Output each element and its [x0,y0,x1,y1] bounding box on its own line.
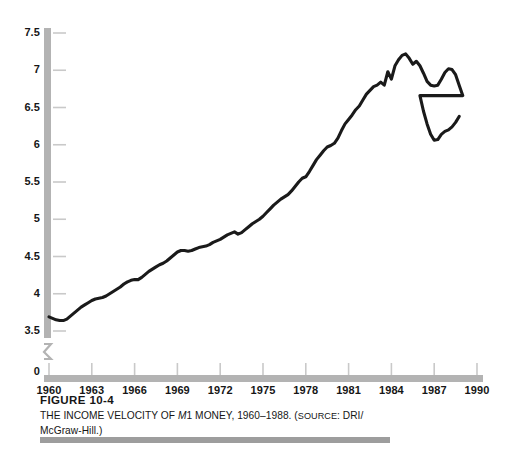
y-axis-break-icon [44,344,51,359]
y-axis-tick-label: 3.5 [24,324,40,336]
caption-text-1: THE INCOME VELOCITY OF [40,410,178,421]
data-line-series [49,54,463,321]
figure-description: THE INCOME VELOCITY OF M1 MONEY, 1960–19… [40,409,440,437]
x-axis-bar [44,375,483,382]
footer-rule [40,437,390,443]
caption-text-2: 1 MONEY, 1960 [187,410,261,421]
caption-text-4: : DRI/ [337,410,363,421]
chart-plot-area: 3.544.555.566.577.50 1960196319661969197… [0,0,520,400]
y-axis-tick-label: 4 [34,287,40,299]
caption-line-2: McGraw-Hill.) [40,425,102,436]
y-axis-bar [44,28,51,338]
y-axis-tick-label: 7 [34,63,40,75]
y-axis-tick-label: 5.5 [24,175,40,187]
velocity-line-chart [0,0,520,400]
x-axis-tick-label: 1990 [452,384,502,396]
y-tick-marks [53,33,66,331]
caption-m-italic: M [178,410,187,421]
y-axis-tick-label: 6.5 [24,101,40,113]
figure-number: FIGURE 10-4 [40,394,440,406]
y-axis-tick-label: 7.5 [24,26,40,38]
y-axis-zero-label: 0 [34,365,40,377]
caption-text-3: 1988. ( [266,410,298,421]
y-axis-tick-label: 6 [34,138,40,150]
y-axis-tick-label: 4.5 [24,250,40,262]
y-axis-tick-label: 5 [34,212,40,224]
figure-caption: FIGURE 10-4 THE INCOME VELOCITY OF M1 MO… [40,394,440,437]
figure-panel: 3.544.555.566.577.50 1960196319661969197… [0,0,520,471]
caption-source-label: SOURCE [298,411,337,421]
x-tick-marks [49,363,477,375]
